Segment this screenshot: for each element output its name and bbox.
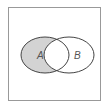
venn-diagram: A B [0,0,109,108]
set-b-label: B [74,50,81,61]
set-a-label: A [36,50,44,61]
